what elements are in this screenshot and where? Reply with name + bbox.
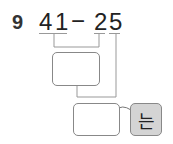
suffix-label: 는 [138,107,155,133]
answer-box-2[interactable] [73,103,120,136]
suffix-label-box: 는 [130,103,162,136]
answer-box-1[interactable] [52,52,100,86]
